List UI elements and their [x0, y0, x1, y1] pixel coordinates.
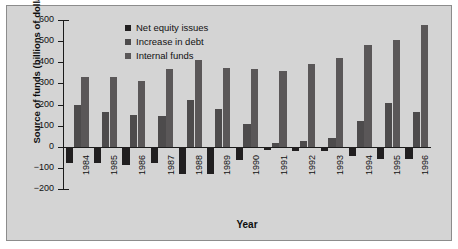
bar [187, 100, 194, 146]
bar [292, 147, 299, 152]
y-tick-mark [58, 189, 64, 190]
x-tick-label: 1985 [110, 155, 119, 175]
x-tick-label: 1994 [365, 155, 374, 175]
bar [336, 58, 343, 147]
y-tick-label: −100 [34, 162, 54, 173]
bar [364, 45, 371, 147]
y-tick-label: 600 [39, 14, 54, 25]
x-tick-label: 1993 [336, 155, 345, 175]
bar [243, 124, 250, 147]
y-tick-label: −200 [34, 183, 54, 194]
bar [81, 77, 88, 146]
bar [251, 69, 258, 147]
bar [94, 147, 101, 163]
bar [66, 147, 73, 164]
bar [158, 116, 165, 147]
bar [385, 103, 392, 146]
y-tick: −200 [58, 189, 64, 190]
bar [179, 147, 186, 174]
y-tick-label: 200 [39, 99, 54, 110]
bar [74, 105, 81, 147]
bar [223, 68, 230, 147]
bar [413, 112, 420, 146]
bar [264, 147, 271, 150]
bar [377, 147, 384, 159]
x-tick-label: 1989 [223, 155, 232, 175]
x-tick-label: 1990 [252, 155, 261, 175]
x-tick-label: 1996 [421, 155, 430, 175]
bar [300, 141, 307, 146]
y-tick-label: 300 [39, 77, 54, 88]
chart-figure: Source of funds (billions of dollars) Ye… [6, 5, 452, 241]
bar [393, 40, 400, 147]
x-tick-label: 1995 [393, 155, 402, 175]
bar [272, 143, 279, 147]
bar [138, 81, 145, 147]
bar [122, 147, 129, 165]
bar [321, 147, 328, 151]
bar [207, 147, 214, 175]
bar [110, 77, 117, 147]
x-tick-label: 1987 [167, 155, 176, 175]
bar [130, 115, 137, 146]
bar [236, 147, 243, 160]
bar [166, 69, 173, 146]
bar [102, 112, 109, 146]
bar [308, 64, 315, 147]
bar [215, 109, 222, 147]
x-tick-label: 1992 [308, 155, 317, 175]
bar [195, 60, 202, 147]
x-tick-label: 1986 [138, 155, 147, 175]
y-tick-label: 400 [39, 56, 54, 67]
x-tick-label: 1991 [280, 155, 289, 175]
y-tick-label: 0 [49, 141, 54, 152]
bar [151, 147, 158, 163]
bar [421, 25, 428, 147]
y-tick-label: 500 [39, 35, 54, 46]
bar [328, 138, 335, 146]
bar [349, 147, 356, 156]
x-tick-label: 1988 [195, 155, 204, 175]
x-tick-label: 1984 [82, 155, 91, 175]
bar [279, 71, 286, 147]
bar [405, 147, 412, 159]
bar [357, 121, 364, 147]
x-axis-label: Year [63, 219, 431, 230]
y-tick-label: 100 [39, 120, 54, 131]
